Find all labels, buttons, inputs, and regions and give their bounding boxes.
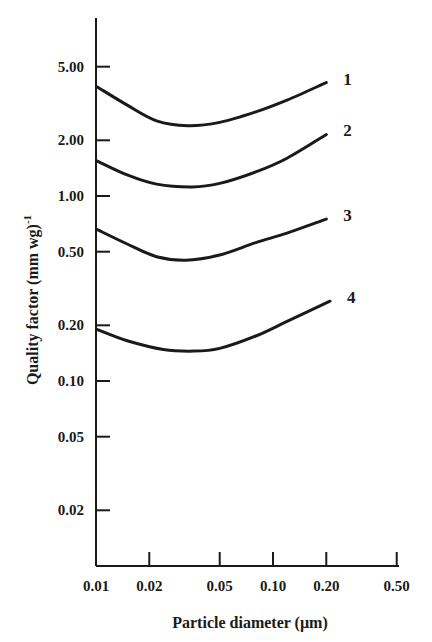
x-tick-label: 0.02 xyxy=(136,578,162,594)
y-tick-label: 0.20 xyxy=(58,317,84,333)
y-axis-title-text: Quality factor (mm wg) xyxy=(24,224,42,385)
y-tick-label: 1.00 xyxy=(58,188,84,204)
x-axis-title: Particle diameter (µm) xyxy=(172,614,328,632)
curve-1 xyxy=(97,83,326,126)
data-curves xyxy=(97,83,330,352)
y-tick-label: 0.05 xyxy=(58,429,84,445)
y-axis-title: Quality factor (mm wg)-1 xyxy=(21,215,42,385)
x-tick-label: 0.05 xyxy=(207,578,233,594)
y-axis-ticks: 5.002.001.000.500.200.100.050.02 xyxy=(58,59,110,519)
curve-3 xyxy=(97,219,326,260)
curve-label-4: 4 xyxy=(347,288,356,307)
y-tick-label: 0.50 xyxy=(58,244,84,260)
x-axis-ticks: 0.010.020.050.100.200.50 xyxy=(83,552,410,594)
curve-label-1: 1 xyxy=(343,70,352,89)
curve-label-2: 2 xyxy=(343,121,352,140)
y-tick-label: 2.00 xyxy=(58,132,84,148)
curve-4 xyxy=(97,301,330,351)
x-tick-label: 0.01 xyxy=(83,578,109,594)
curve-label-3: 3 xyxy=(343,206,352,225)
y-tick-label: 5.00 xyxy=(58,59,84,75)
y-tick-label: 0.10 xyxy=(58,373,84,389)
x-tick-label: 0.50 xyxy=(384,578,410,594)
x-tick-label: 0.10 xyxy=(260,578,286,594)
curve-labels: 1234 xyxy=(343,70,356,308)
y-tick-label: 0.02 xyxy=(58,502,84,518)
x-tick-label: 0.20 xyxy=(313,578,339,594)
curve-2 xyxy=(97,135,326,187)
y-axis-title-superscript: -1 xyxy=(21,215,33,224)
chart: 5.002.001.000.500.200.100.050.02 0.010.0… xyxy=(0,0,432,642)
